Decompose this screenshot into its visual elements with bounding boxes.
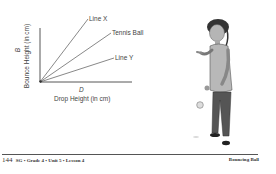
origin-dot: [39, 80, 41, 82]
line-y: [40, 58, 114, 82]
footer-course-info: SG • Grade 4 • Unit 5 • Lesson 4: [16, 158, 84, 163]
page-number: 144: [2, 156, 13, 164]
line-tennis-ball: [40, 33, 111, 82]
student-illustration: [180, 0, 276, 150]
bounce-graph: Line X Tennis Ball Line Y D Drop Height …: [0, 0, 150, 110]
footer-left: 144 SG • Grade 4 • Unit 5 • Lesson 4: [2, 156, 84, 164]
footer-divider: [2, 154, 258, 155]
x-axis-variable: D: [79, 86, 84, 93]
pants: [212, 92, 231, 136]
face: [210, 25, 225, 42]
line-x: [40, 19, 88, 82]
ball-icon: [197, 102, 204, 109]
line-x-label: Line X: [89, 15, 108, 22]
line-tennis-ball-label: Tennis Ball: [112, 29, 144, 36]
footer-title: Bouncing Ball: [229, 157, 259, 162]
y-axis-label: Bounce Height (in cm): [23, 24, 31, 88]
line-y-label: Line Y: [115, 54, 134, 61]
x-axis-label: Drop Height (in cm): [54, 95, 110, 103]
y-axis-variable: B: [14, 47, 21, 52]
